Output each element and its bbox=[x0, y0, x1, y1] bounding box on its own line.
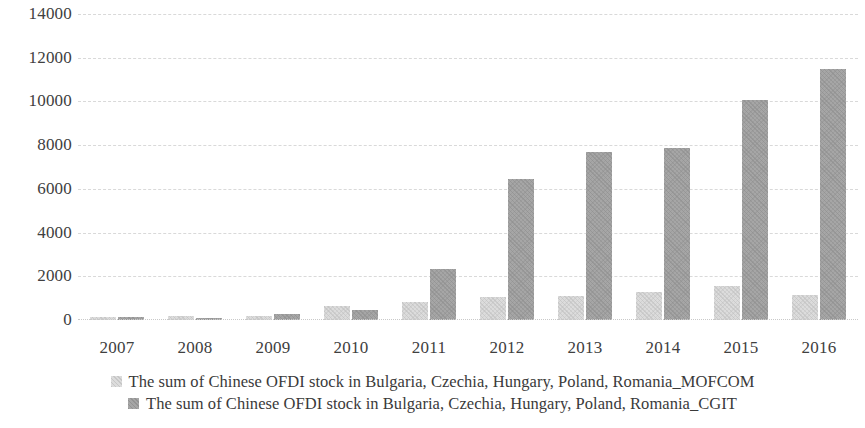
bar-group bbox=[234, 14, 312, 320]
bar bbox=[636, 292, 662, 320]
bar bbox=[664, 148, 690, 320]
bar-chart: 14000120001000080006000400020000 2007200… bbox=[0, 0, 865, 428]
x-axis-tick-label: 2009 bbox=[234, 336, 312, 364]
bar bbox=[792, 295, 818, 320]
x-axis-tick-label: 2012 bbox=[468, 336, 546, 364]
bar-group bbox=[390, 14, 468, 320]
bar bbox=[480, 297, 506, 320]
y-axis-tick-label: 6000 bbox=[4, 180, 72, 197]
bar-group bbox=[702, 14, 780, 320]
x-axis-tick-label: 2015 bbox=[702, 336, 780, 364]
x-axis-tick-label: 2013 bbox=[546, 336, 624, 364]
bar-group bbox=[780, 14, 858, 320]
bar-group bbox=[156, 14, 234, 320]
x-axis-line bbox=[78, 319, 858, 320]
bar bbox=[742, 100, 768, 320]
bar bbox=[558, 296, 584, 320]
bar bbox=[586, 152, 612, 320]
bar-group bbox=[546, 14, 624, 320]
legend-label: The sum of Chinese OFDI stock in Bulgari… bbox=[146, 394, 737, 413]
y-axis: 14000120001000080006000400020000 bbox=[0, 0, 72, 334]
y-axis-tick-label: 4000 bbox=[4, 224, 72, 241]
x-axis-tick-label: 2007 bbox=[78, 336, 156, 364]
y-axis-tick-label: 14000 bbox=[4, 5, 72, 22]
plot-area bbox=[78, 14, 858, 320]
y-axis-tick-label: 2000 bbox=[4, 267, 72, 284]
bar-group bbox=[78, 14, 156, 320]
bar bbox=[508, 179, 534, 320]
bar bbox=[324, 306, 350, 320]
y-axis-tick-label: 10000 bbox=[4, 92, 72, 109]
x-axis-tick-label: 2011 bbox=[390, 336, 468, 364]
x-axis-tick-label: 2014 bbox=[624, 336, 702, 364]
bar-group bbox=[468, 14, 546, 320]
bar bbox=[430, 269, 456, 320]
legend-row[interactable]: The sum of Chinese OFDI stock in Bulgari… bbox=[0, 370, 865, 392]
bar bbox=[820, 69, 846, 320]
bar bbox=[402, 302, 428, 320]
legend-row[interactable]: The sum of Chinese OFDI stock in Bulgari… bbox=[0, 392, 865, 414]
legend-entry[interactable]: The sum of Chinese OFDI stock in Bulgari… bbox=[111, 372, 755, 391]
bar-group bbox=[624, 14, 702, 320]
x-axis: 2007200820092010201120122013201420152016 bbox=[78, 336, 858, 364]
legend-swatch-cgit-icon bbox=[128, 398, 139, 409]
bar bbox=[714, 286, 740, 320]
legend-entry[interactable]: The sum of Chinese OFDI stock in Bulgari… bbox=[128, 394, 737, 413]
chart-legend: The sum of Chinese OFDI stock in Bulgari… bbox=[0, 370, 865, 414]
x-axis-tick-label: 2016 bbox=[780, 336, 858, 364]
bars-layer bbox=[78, 14, 858, 320]
x-axis-tick-label: 2008 bbox=[156, 336, 234, 364]
legend-swatch-mofcom-icon bbox=[111, 376, 122, 387]
y-axis-tick-label: 0 bbox=[4, 311, 72, 328]
y-axis-tick-label: 8000 bbox=[4, 136, 72, 153]
bar-group bbox=[312, 14, 390, 320]
legend-label: The sum of Chinese OFDI stock in Bulgari… bbox=[129, 372, 755, 391]
x-axis-tick-label: 2010 bbox=[312, 336, 390, 364]
y-axis-tick-label: 12000 bbox=[4, 49, 72, 66]
